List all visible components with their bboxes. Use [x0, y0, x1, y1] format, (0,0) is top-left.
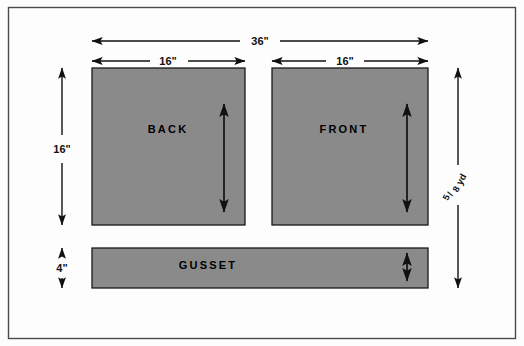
back-width-label: 16" — [159, 55, 176, 67]
front-panel-label: FRONT — [320, 123, 369, 135]
page-background — [0, 0, 524, 346]
back-panel-label: BACK — [148, 123, 189, 135]
back-panel-shape — [92, 68, 245, 225]
diagram-canvas: BACK FRONT GUSSET 36" 16" 16" 16" — [0, 0, 524, 346]
gusset-panel-label: GUSSET — [179, 259, 237, 271]
gusset-panel-shape — [92, 248, 428, 288]
gusset-height-label: 4" — [56, 262, 67, 274]
panel-height-label: 16" — [53, 143, 70, 155]
overall-width-label: 36" — [251, 35, 268, 47]
front-width-label: 16" — [336, 55, 353, 67]
front-panel-shape — [272, 68, 428, 225]
fabric-layout-diagram: BACK FRONT GUSSET 36" 16" 16" 16" — [0, 0, 524, 346]
